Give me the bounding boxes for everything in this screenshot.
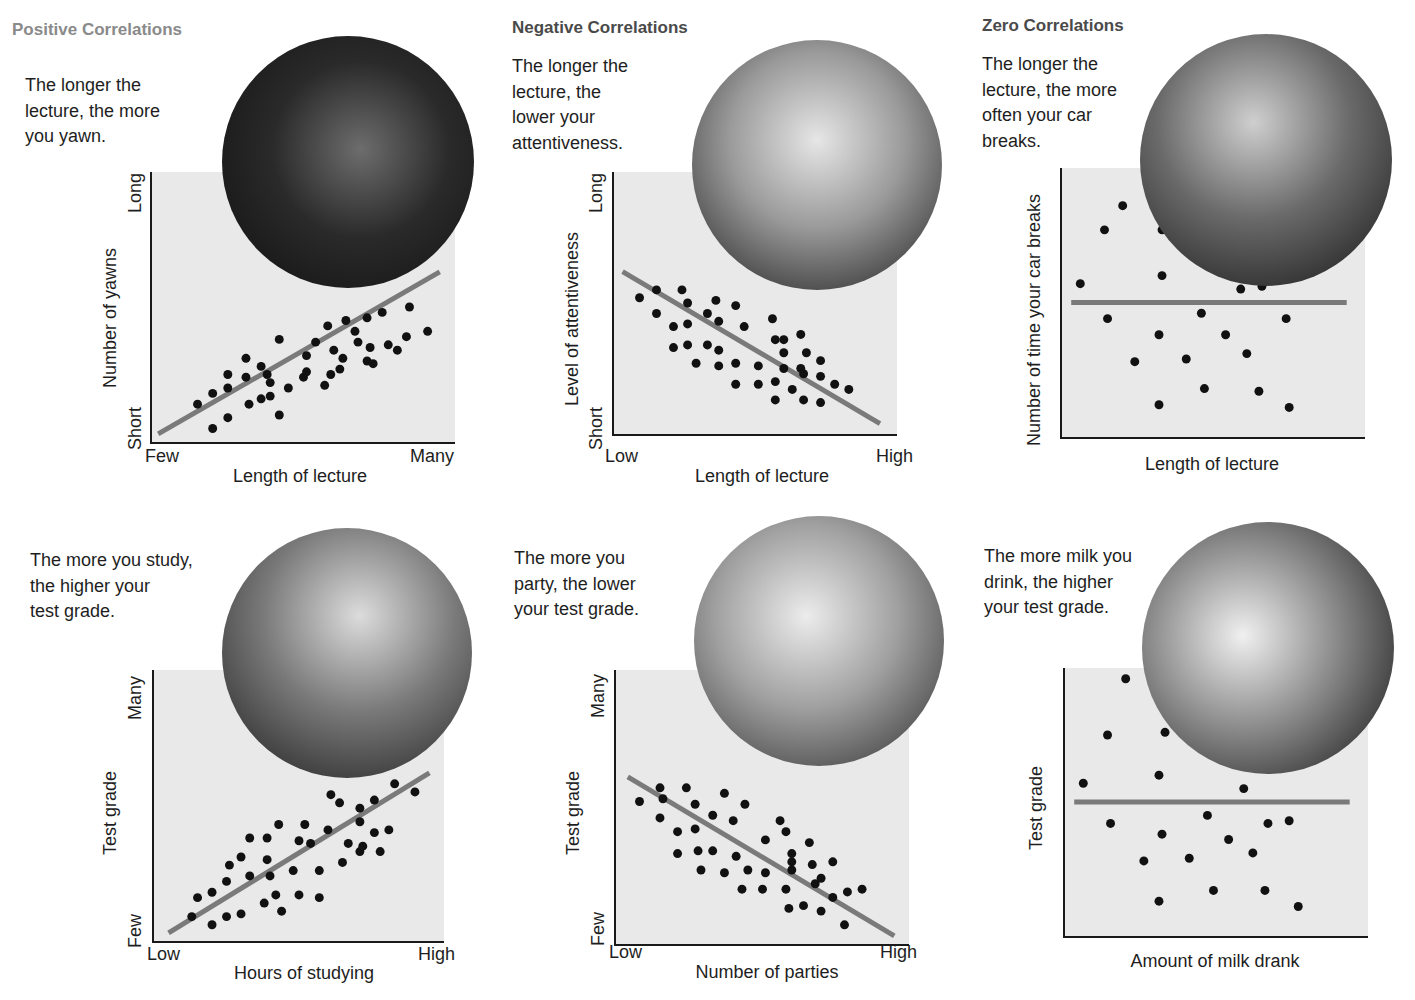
data-point: [1103, 731, 1112, 740]
y-axis-label: Level of attentiveness: [562, 232, 583, 406]
caption-line: party, the lower: [514, 572, 639, 598]
data-point: [669, 343, 678, 352]
y-tick-bottom: Few: [588, 912, 609, 946]
data-point: [402, 332, 411, 341]
data-point: [1121, 674, 1130, 683]
data-point: [390, 779, 399, 788]
x-axis-label: Length of lecture: [180, 466, 420, 487]
caption-line: test grade.: [30, 599, 193, 625]
data-point: [326, 790, 335, 799]
y-tick-bottom: Short: [586, 407, 607, 450]
data-point: [1248, 848, 1257, 857]
y-axis-label: Test grade: [100, 771, 121, 855]
y-tick-bottom: Few: [125, 914, 146, 948]
data-point: [805, 838, 814, 847]
caption-line: lower your: [512, 105, 628, 131]
data-point: [708, 846, 717, 855]
data-point: [323, 321, 332, 330]
data-point: [830, 380, 839, 389]
data-point: [787, 857, 796, 866]
caption-line: lecture, the: [512, 80, 628, 106]
data-point: [242, 354, 251, 363]
data-point: [703, 309, 712, 318]
data-point: [208, 920, 217, 929]
data-point: [858, 885, 867, 894]
data-point: [808, 860, 817, 869]
data-point: [703, 340, 712, 349]
data-point: [843, 887, 852, 896]
x-tick-left: Low: [147, 944, 180, 965]
y-tick-bottom: Short: [125, 407, 146, 450]
data-point: [1182, 355, 1191, 364]
data-point: [378, 308, 387, 317]
data-point: [223, 370, 232, 379]
data-point: [683, 319, 692, 328]
data-point: [776, 816, 785, 825]
x-axis-label: Hours of studying: [184, 963, 424, 984]
data-point: [720, 868, 729, 877]
data-point: [656, 783, 665, 792]
data-point: [1254, 387, 1263, 396]
data-point: [1294, 902, 1303, 911]
data-point: [658, 794, 667, 803]
data-point: [1260, 886, 1269, 895]
data-point: [1209, 886, 1218, 895]
data-point: [263, 855, 272, 864]
data-point: [652, 285, 661, 294]
data-point: [714, 361, 723, 370]
data-point: [683, 299, 692, 308]
caption-line: your test grade.: [984, 595, 1132, 621]
data-point: [720, 789, 729, 798]
woman-drinking-milk-photo: [1142, 522, 1394, 774]
caption-line: The more you study,: [30, 548, 193, 574]
data-point: [1224, 835, 1233, 844]
data-point: [271, 890, 280, 899]
data-point: [1158, 271, 1167, 280]
data-point: [275, 411, 284, 420]
data-point: [266, 392, 275, 401]
data-point: [1155, 897, 1164, 906]
data-point: [306, 839, 315, 848]
data-point: [315, 893, 324, 902]
data-point: [787, 849, 796, 858]
data-point: [237, 853, 246, 862]
data-point: [208, 424, 217, 433]
panel-caption: The more you study,the higher yourtest g…: [30, 548, 193, 625]
data-point: [302, 351, 311, 360]
data-point: [771, 377, 780, 386]
data-point: [816, 398, 825, 407]
x-tick-left: Low: [605, 446, 638, 467]
data-point: [828, 857, 837, 866]
data-point: [673, 849, 682, 858]
data-point: [779, 348, 788, 357]
data-point: [771, 395, 780, 404]
data-point: [208, 389, 217, 398]
data-point: [708, 811, 717, 820]
data-point: [781, 827, 790, 836]
data-point: [799, 901, 808, 910]
data-point: [222, 912, 231, 921]
data-point: [245, 871, 254, 880]
data-point: [692, 359, 701, 368]
data-point: [1100, 225, 1109, 234]
panel-caption: The longer thelecture, the moreyou yawn.: [25, 73, 160, 150]
woman-yawning-photo: [222, 36, 474, 288]
data-point: [193, 400, 202, 409]
section-title-zero: Zero Correlations: [982, 16, 1124, 36]
studying-student-photo: [222, 528, 472, 778]
x-axis-label: Length of lecture: [642, 466, 882, 487]
caption-line: The more milk you: [984, 544, 1132, 570]
data-point: [714, 346, 723, 355]
data-point: [423, 327, 432, 336]
data-point: [796, 330, 805, 339]
data-point: [788, 385, 797, 394]
x-tick-right: High: [876, 446, 913, 467]
data-point: [740, 322, 749, 331]
data-point: [351, 327, 360, 336]
data-point: [768, 314, 777, 323]
data-point: [295, 836, 304, 845]
data-point: [677, 285, 686, 294]
data-point: [384, 340, 393, 349]
data-point: [652, 309, 661, 318]
data-point: [311, 338, 320, 347]
